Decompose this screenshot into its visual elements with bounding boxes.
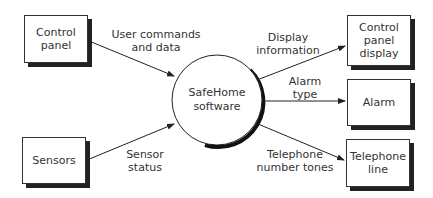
safehome-process-label: SafeHome software	[177, 86, 257, 114]
entity-sensors: Sensors	[22, 137, 86, 184]
entity-control-panel: Control panel	[24, 15, 88, 63]
entity-label: Control panel	[36, 26, 76, 52]
flow-label-user-commands: User commands and data	[108, 28, 204, 54]
flow-label-telephone-tones: Telephone number tones	[250, 148, 340, 174]
flow-label-sensor-status: Sensor status	[115, 148, 175, 174]
entity-label: Alarm	[363, 96, 395, 109]
entity-telephone-line: Telephone line	[346, 139, 410, 187]
flow-label-display-information: Display information	[250, 31, 326, 57]
entity-alarm: Alarm	[347, 79, 411, 126]
flow-label-alarm-type: Alarm type	[280, 75, 330, 101]
entity-label: Telephone line	[350, 150, 406, 176]
entity-label: Control panel display	[359, 21, 399, 60]
entity-label: Sensors	[32, 154, 75, 167]
entity-control-panel-display: Control panel display	[347, 15, 411, 66]
